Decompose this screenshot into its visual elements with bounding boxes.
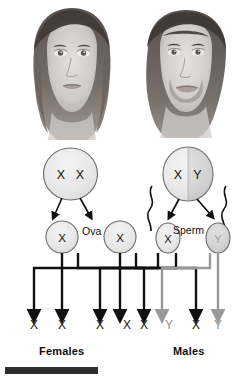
offspring-genotypes: X X X X X Y X Y <box>0 318 248 338</box>
offspring-1-right: X <box>55 318 69 332</box>
father-allele-right: Y <box>193 168 202 182</box>
ova-label: Ova <box>82 225 101 237</box>
offspring-3-left: X <box>137 318 151 332</box>
ovum-2: X <box>104 221 136 253</box>
mother-cell: X X <box>44 148 98 214</box>
ovum-1-allele: X <box>58 232 66 244</box>
sperm-x-paths <box>34 253 176 312</box>
offspring-1-left: X <box>27 318 41 332</box>
mother-allele-left: X <box>57 168 66 182</box>
sperm-x-allele: X <box>164 233 172 245</box>
bottom-rule <box>5 367 98 374</box>
mother-allele-right: X <box>76 168 85 182</box>
offspring-2-right: X <box>120 318 134 332</box>
sperm-y: Y <box>206 186 230 253</box>
females-label: Females <box>39 345 84 357</box>
sperm-y-paths <box>162 253 218 312</box>
father-cell: X Y <box>163 147 213 214</box>
ovum-2-paths <box>80 253 144 312</box>
sex-determination-diagram: X X X Y X X <box>0 0 248 376</box>
offspring-4-right: Y <box>211 318 225 332</box>
offspring-3-right: Y <box>162 318 176 332</box>
sperm-y-allele: Y <box>214 233 222 245</box>
sperm-label: Sperm <box>173 224 204 236</box>
offspring-2-left: X <box>93 318 107 332</box>
offspring-4-left: X <box>189 318 203 332</box>
ovum-1: X <box>46 221 78 253</box>
father-allele-left: X <box>174 168 183 182</box>
ovum-2-allele: X <box>116 232 124 244</box>
males-label: Males <box>173 345 205 357</box>
